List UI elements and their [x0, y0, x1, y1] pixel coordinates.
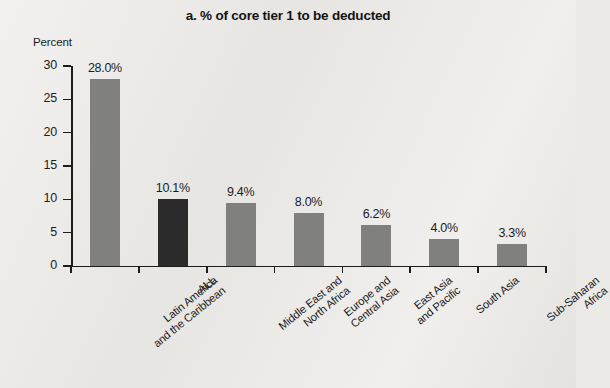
x-tick-mark	[138, 266, 140, 273]
bar-value-label: 4.0%	[414, 221, 474, 235]
bar-value-label: 28.0%	[75, 61, 135, 75]
y-tick-mark	[63, 165, 71, 167]
y-tick-label: 10	[25, 191, 57, 205]
category-label: East Asiaand Pacific	[406, 274, 463, 327]
category-label: Europe andCentral Asia	[339, 274, 400, 331]
bar[interactable]	[497, 244, 527, 266]
y-tick-mark	[63, 132, 71, 134]
x-tick-mark	[545, 266, 547, 273]
y-tick-mark	[63, 99, 71, 101]
x-tick-mark	[409, 266, 411, 273]
y-tick-label: 5	[25, 225, 57, 239]
bar[interactable]	[294, 213, 324, 266]
bar-value-label: 8.0%	[279, 195, 339, 209]
bar[interactable]	[361, 225, 391, 266]
bar-value-label: 10.1%	[143, 181, 203, 195]
y-tick-label: 0	[25, 258, 57, 272]
category-label-line: South Asia	[474, 274, 522, 317]
bar[interactable]	[158, 199, 188, 266]
bar[interactable]	[90, 79, 120, 266]
y-tick-label: 30	[25, 58, 57, 72]
x-tick-mark	[342, 266, 344, 273]
bar-value-label: 3.3%	[482, 226, 542, 240]
x-tick-mark	[206, 266, 208, 273]
y-axis-line	[71, 66, 73, 267]
bar[interactable]	[429, 239, 459, 266]
x-tick-mark	[274, 266, 276, 273]
y-tick-mark	[63, 232, 71, 234]
y-tick-mark	[63, 65, 71, 67]
x-tick-mark	[477, 266, 479, 273]
y-tick-label: 25	[25, 91, 57, 105]
bar-value-label: 6.2%	[346, 207, 406, 221]
y-tick-mark	[63, 199, 71, 201]
bar[interactable]	[226, 203, 256, 266]
bar-value-label: 9.4%	[211, 185, 271, 199]
y-tick-label: 15	[25, 158, 57, 172]
category-label: South Asia	[474, 274, 522, 317]
y-tick-label: 20	[25, 125, 57, 139]
x-tick-mark	[70, 266, 72, 273]
category-label: Sub-SaharanAfrica	[544, 274, 610, 334]
